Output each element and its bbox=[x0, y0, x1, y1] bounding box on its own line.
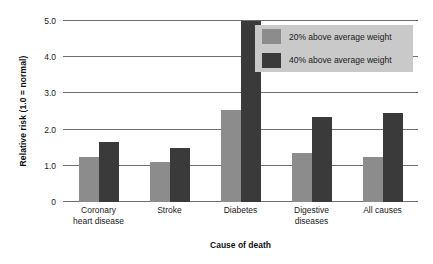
x-tick-label: Digestivediseases bbox=[276, 205, 347, 226]
x-tick-label-line: Stroke bbox=[134, 205, 205, 216]
bar bbox=[363, 157, 383, 202]
x-tick-label: Diabetes bbox=[205, 205, 276, 226]
bar-group bbox=[63, 21, 134, 202]
bar-group bbox=[134, 21, 205, 202]
bar bbox=[79, 157, 99, 202]
legend: 20% above average weight40% above averag… bbox=[255, 25, 413, 72]
bar bbox=[383, 113, 403, 202]
legend-swatch bbox=[262, 29, 281, 44]
legend-label: 40% above average weight bbox=[289, 55, 392, 65]
x-tick-label: Coronaryheart disease bbox=[63, 205, 134, 226]
x-tick-label-line: Coronary bbox=[63, 205, 134, 216]
x-tick-label-line: Digestive bbox=[276, 205, 347, 216]
x-tick-label-line: All causes bbox=[347, 205, 418, 216]
bar bbox=[221, 110, 241, 202]
x-tick-label: Stroke bbox=[134, 205, 205, 226]
legend-swatch bbox=[262, 53, 281, 68]
y-tick-label: 5.0 bbox=[10, 16, 56, 26]
x-axis-tick-labels: Coronaryheart diseaseStrokeDiabetesDiges… bbox=[63, 205, 418, 226]
y-tick-label: 2.0 bbox=[10, 125, 56, 135]
bar bbox=[292, 153, 312, 202]
x-tick-label-line: heart disease bbox=[63, 216, 134, 227]
y-tick-label: 3.0 bbox=[10, 88, 56, 98]
bar-chart: Relative risk (1.0 = normal) 01.02.03.04… bbox=[0, 0, 433, 264]
legend-label: 20% above average weight bbox=[289, 32, 392, 42]
x-tick-label-line: Diabetes bbox=[205, 205, 276, 216]
bar bbox=[312, 117, 332, 202]
bar bbox=[150, 162, 170, 202]
legend-item: 20% above average weight bbox=[255, 25, 413, 49]
y-axis-tick-labels: 01.02.03.04.05.0 bbox=[8, 21, 56, 202]
x-tick-label: All causes bbox=[347, 205, 418, 226]
x-tick-label-line: diseases bbox=[276, 216, 347, 227]
y-tick-label: 1.0 bbox=[10, 161, 56, 171]
y-tick-label: 4.0 bbox=[10, 52, 56, 62]
bar bbox=[170, 148, 190, 202]
y-tick-label: 0 bbox=[10, 197, 56, 207]
bar bbox=[99, 142, 119, 202]
x-axis-title: Cause of death bbox=[63, 240, 418, 250]
legend-item: 40% above average weight bbox=[255, 49, 413, 73]
